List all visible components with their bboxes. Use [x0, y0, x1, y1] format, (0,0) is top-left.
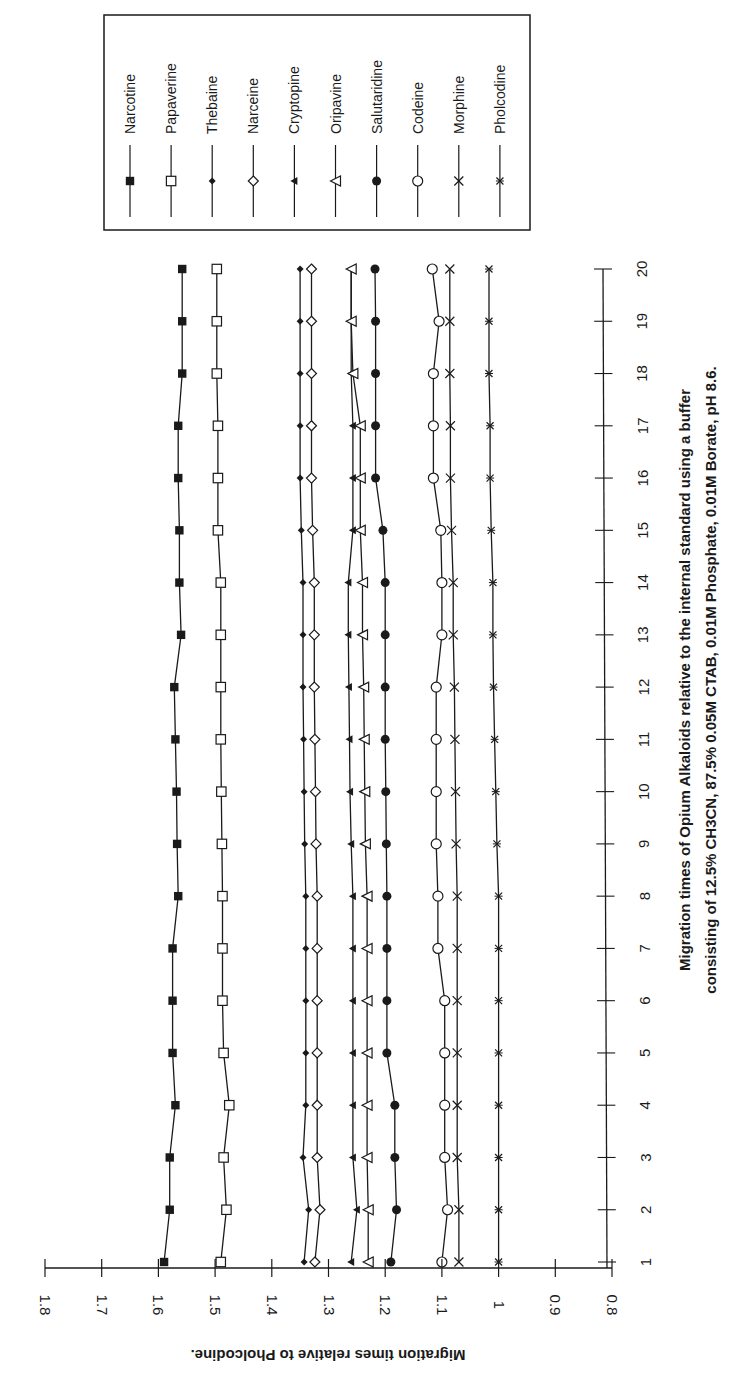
filled-circle-marker-icon	[386, 1258, 395, 1267]
filled-circle-marker-icon	[371, 369, 380, 378]
legend-label: Cryptopine	[286, 66, 302, 134]
filled-diamond-marker-icon	[301, 788, 308, 795]
open-circle-marker-icon	[440, 1100, 450, 1110]
open-circle-marker-icon	[437, 630, 447, 640]
legend-label: Salutaridine	[369, 60, 385, 134]
filled-diamond-marker-icon	[297, 370, 304, 377]
series-narceine	[306, 264, 325, 1267]
filled-diamond-marker-icon	[302, 1049, 309, 1056]
sample-tick-label: 11	[635, 732, 652, 748]
filled-square-marker-icon	[174, 474, 182, 482]
filled-square-marker-icon	[168, 944, 176, 952]
value-tick-label: 1.7	[94, 1295, 111, 1316]
sample-tick-label: 9	[635, 840, 652, 848]
filled-circle-marker-icon	[382, 839, 391, 848]
value-axis-title: Migration times relative to Pholcodine.	[190, 1347, 465, 1364]
value-tick-label: 1.3	[321, 1295, 338, 1316]
filled-square-marker-icon	[174, 892, 182, 900]
filled-diamond-marker-icon	[298, 527, 305, 534]
open-diamond-marker-icon	[308, 525, 318, 535]
open-square-marker-icon	[217, 839, 226, 848]
sample-tick-label: 19	[633, 313, 650, 330]
filled-triangle-marker-icon	[347, 1258, 354, 1266]
value-tick-label: 1.8	[37, 1295, 54, 1316]
series-salutaridine	[370, 265, 401, 1267]
filled-square-marker-icon	[170, 683, 178, 691]
open-square-marker-icon	[216, 682, 225, 691]
open-circle-marker-icon	[431, 682, 441, 692]
filled-circle-marker-icon	[381, 683, 390, 692]
sample-tick-label: 14	[634, 574, 651, 591]
open-square-marker-icon	[217, 787, 226, 796]
open-square-marker-icon	[216, 578, 225, 587]
filled-diamond-marker-icon	[299, 579, 306, 586]
open-square-marker-icon	[222, 1205, 231, 1214]
filled-diamond-marker-icon	[302, 893, 309, 900]
open-square-marker-icon	[213, 526, 222, 535]
open-circle-marker-icon	[428, 473, 438, 483]
series-pholcodine	[485, 266, 503, 1266]
open-square-marker-icon	[218, 996, 227, 1005]
sample-tick-label: 13	[634, 626, 651, 643]
open-square-marker-icon	[212, 264, 221, 273]
filled-diamond-marker-icon	[302, 945, 309, 952]
filled-diamond-marker-icon	[297, 422, 304, 429]
open-diamond-marker-icon	[306, 473, 316, 483]
open-diamond-marker-icon	[309, 682, 319, 692]
filled-square-marker-icon	[178, 317, 186, 325]
open-circle-marker-icon	[440, 1152, 450, 1162]
open-diamond-marker-icon	[306, 264, 316, 274]
value-tick-label: 0.9	[547, 1295, 564, 1316]
filled-diamond-marker-icon	[297, 318, 304, 325]
open-diamond-marker-icon	[312, 1152, 322, 1162]
open-square-marker-icon	[218, 891, 227, 900]
filled-diamond-marker-icon	[299, 631, 306, 638]
sample-tick-label: 15	[634, 522, 651, 539]
filled-square-marker-icon	[175, 578, 183, 586]
value-tick-label: 1.1	[434, 1295, 451, 1316]
filled-circle-marker-icon	[392, 1205, 401, 1214]
open-square-marker-icon	[225, 1101, 234, 1110]
open-circle-marker-icon	[428, 369, 438, 379]
filled-circle-marker-icon	[381, 630, 390, 639]
value-tick-label: 0.8	[604, 1295, 621, 1316]
open-circle-marker-icon	[433, 891, 443, 901]
filled-diamond-marker-icon	[305, 1206, 312, 1213]
open-square-marker-icon	[216, 1257, 225, 1266]
open-square-marker-icon	[219, 1048, 228, 1057]
value-tick-label: 1.5	[207, 1295, 224, 1316]
filled-square-marker-icon	[174, 422, 182, 430]
series-thebaine	[297, 266, 313, 1266]
filled-diamond-marker-icon	[299, 684, 306, 691]
sample-tick-label: 1	[637, 1258, 654, 1266]
sample-tick-label: 6	[636, 997, 653, 1005]
value-tick-label: 1.4	[264, 1295, 281, 1316]
filled-circle-marker-icon	[381, 578, 390, 587]
open-square-marker-icon	[216, 735, 225, 744]
filled-square-marker-icon	[172, 787, 180, 795]
sample-axis: 1234567891011121314151617181920	[594, 261, 654, 1268]
filled-circle-marker-icon	[370, 265, 379, 274]
open-square-marker-icon	[212, 369, 221, 378]
filled-square-marker-icon	[175, 526, 183, 534]
open-diamond-marker-icon	[306, 421, 316, 431]
sample-tick-label: 18	[633, 365, 650, 382]
sample-tick-label: 10	[635, 783, 652, 800]
plot-area	[160, 264, 503, 1267]
filled-circle-marker-icon	[371, 421, 380, 430]
legend-label: Codeine	[410, 82, 426, 134]
filled-diamond-marker-icon	[300, 736, 307, 743]
filled-square-marker-icon	[178, 369, 186, 377]
open-diamond-marker-icon	[312, 891, 322, 901]
open-square-marker-icon	[218, 944, 227, 953]
open-diamond-marker-icon	[310, 787, 320, 797]
open-square-marker-icon	[213, 473, 222, 482]
filled-diamond-marker-icon	[301, 840, 308, 847]
legend-label: Narcotine	[122, 74, 138, 134]
series-codeine	[427, 264, 452, 1267]
sample-tick-label: 17	[634, 417, 651, 434]
value-tick-label: 1.2	[377, 1295, 394, 1316]
filled-circle-marker-icon	[381, 735, 390, 744]
open-square-marker-icon	[219, 1153, 228, 1162]
legend-label: Thebaine	[204, 75, 220, 134]
